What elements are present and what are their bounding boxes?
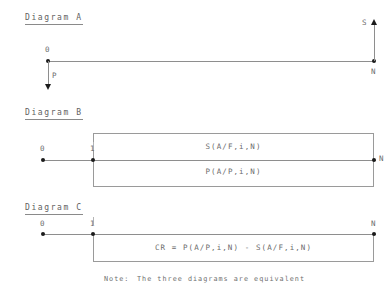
diagram-b-formula-above: S(A/F,i,N) xyxy=(93,143,374,151)
diagram-c-node-1 xyxy=(91,232,95,236)
diagram-b-node-0-label: 0 xyxy=(40,145,46,153)
diagram-b-formula-below: P(A/P,i,N) xyxy=(93,168,374,176)
diagram-b-title: Diagram B xyxy=(25,109,83,120)
diagram-a-arrow-p-shaft xyxy=(48,61,49,85)
diagram-a-arrow-s-label: S xyxy=(362,19,368,27)
diagram-c-title: Diagram C xyxy=(25,204,83,215)
diagram-a-timeline xyxy=(48,61,374,62)
diagram-a-arrow-p-label: P xyxy=(52,72,58,80)
diagram-b-node-n xyxy=(372,158,376,162)
diagram-b-node-1 xyxy=(91,158,95,162)
diagram-c-formula: CR = P(A/P,i,N) - S(A/F,i,N) xyxy=(93,244,374,252)
diagram-c-node-0-label: 0 xyxy=(40,220,46,228)
diagram-a-node-0-label: 0 xyxy=(45,46,51,54)
diagram-c-node-1-label: 1 xyxy=(90,220,96,228)
diagram-a-arrow-s-head xyxy=(371,19,377,25)
note-text: The three diagrams are equivalent xyxy=(137,276,305,283)
diagram-a-node-n-label: N xyxy=(371,68,377,76)
diagram-a-arrow-s-shaft xyxy=(374,25,375,61)
diagram-a-title: Diagram A xyxy=(25,14,83,25)
diagram-canvas: Diagram A 0 N P S Diagram B 0 1 N S(A/F,… xyxy=(0,0,387,294)
diagram-c-node-n xyxy=(372,232,376,236)
diagram-b-node-0 xyxy=(41,158,45,162)
diagram-b-node-n-label: N xyxy=(379,155,385,163)
diagram-c-node-n-label: N xyxy=(371,220,377,228)
diagram-c-node-0 xyxy=(41,232,45,236)
diagram-a-arrow-p-head xyxy=(45,84,51,90)
note-prefix: Note: xyxy=(104,276,129,283)
